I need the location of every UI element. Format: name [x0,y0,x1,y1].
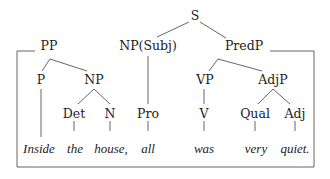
node-p: P [37,72,45,87]
node-v: V [198,106,209,121]
word-house: house, [94,141,128,156]
node-s: S [191,8,200,23]
word-quiet: quiet. [280,141,309,156]
word-the: the [67,141,83,156]
word-very: very [245,141,268,156]
node-adjp: AdjP [257,72,287,87]
node-det: Det [63,106,85,121]
node-n: N [105,106,116,121]
syntax-tree-diagram: S NP(Subj) PredP PP P NP VP AdjP Det N P… [0,0,330,179]
node-adj: Adj [284,106,306,121]
node-pro: Pro [137,106,159,121]
node-predp: PredP [225,38,263,53]
word-inside: Inside [22,141,55,156]
word-was: was [194,141,214,156]
word-all: all [141,141,155,156]
node-np: NP [84,72,103,87]
node-np-subj: NP(Subj) [119,38,177,53]
node-qual: Qual [240,106,270,121]
node-pp: PP [41,38,58,53]
node-vp: VP [195,72,213,87]
